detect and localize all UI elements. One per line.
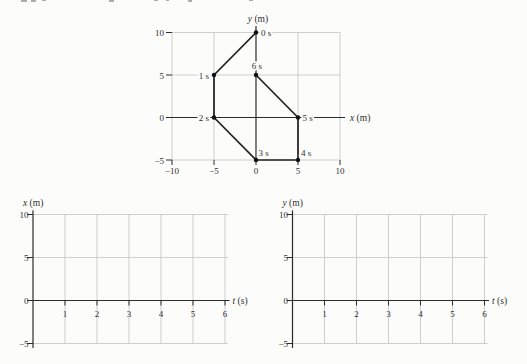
data-point-marker-0s — [254, 30, 258, 34]
point-time-label: 2 s — [199, 113, 210, 123]
x-tick-label: 3 — [127, 309, 132, 319]
data-point-marker-3s — [254, 158, 258, 162]
y-tick-label: 0 — [24, 296, 29, 306]
point-time-label: 6 s — [252, 61, 263, 71]
point-time-label: 0 s — [261, 28, 272, 38]
y-tick-label: 5 — [160, 71, 165, 81]
x-tick-label: 6 — [482, 309, 487, 319]
x-vs-t-chart: −50510123456t (s)x (m) — [19, 198, 248, 349]
data-point-marker-2s — [212, 115, 216, 119]
x-tick-label: 5 — [191, 309, 196, 319]
x-tick-label: 1 — [322, 309, 327, 319]
y-axis-label: y (m) — [247, 14, 268, 25]
x-tick-label: 5 — [296, 166, 301, 176]
y-tick-label: 10 — [279, 210, 289, 220]
x-tick-label: 10 — [336, 166, 346, 176]
x-tick-label: 4 — [418, 309, 423, 319]
y-tick-label: 10 — [20, 210, 30, 220]
y-tick-label: 5 — [24, 253, 29, 263]
x-tick-label: 3 — [386, 309, 391, 319]
x-tick-label: 0 — [254, 166, 259, 176]
y-tick-label: 10 — [155, 28, 165, 38]
y-tick-label: −5 — [19, 339, 29, 349]
y-tick-label: −5 — [154, 156, 164, 166]
point-time-label: 4 s — [301, 148, 312, 158]
y-axis-label: x (m) — [22, 198, 43, 209]
figure-canvas: −50510−10−505100 s1 s2 s3 s4 s5 s6 sx (m… — [0, 0, 527, 364]
trajectory-chart: −50510−10−505100 s1 s2 s3 s4 s5 s6 sx (m… — [154, 14, 370, 176]
x-axis-label: t (s) — [233, 296, 248, 307]
y-tick-label: −5 — [278, 339, 288, 349]
x-tick-label: −5 — [209, 166, 219, 176]
data-point-marker-1s — [212, 73, 216, 77]
x-tick-label: 4 — [159, 309, 164, 319]
x-axis-label: t (s) — [492, 296, 507, 307]
x-tick-label: 5 — [450, 309, 455, 319]
y-tick-label: 0 — [160, 113, 165, 123]
y-tick-label: 0 — [284, 296, 289, 306]
data-point-marker-5s — [296, 115, 300, 119]
x-tick-label: 2 — [95, 309, 100, 319]
x-tick-label: −10 — [165, 166, 180, 176]
data-point-marker-6s — [254, 73, 258, 77]
point-time-label: 1 s — [199, 71, 210, 81]
y-vs-t-chart: −50510123456t (s)y (m) — [278, 198, 507, 349]
data-point-marker-4s — [296, 158, 300, 162]
x-tick-label: 6 — [223, 309, 228, 319]
x-tick-label: 1 — [63, 309, 68, 319]
charts-svg: −50510−10−505100 s1 s2 s3 s4 s5 s6 sx (m… — [0, 0, 527, 364]
y-tick-label: 5 — [284, 253, 289, 263]
x-tick-label: 2 — [354, 309, 359, 319]
point-time-label: 3 s — [259, 148, 270, 158]
point-time-label: 5 s — [303, 113, 314, 123]
x-axis-label: x (m) — [349, 113, 370, 124]
y-axis-label: y (m) — [282, 198, 303, 209]
